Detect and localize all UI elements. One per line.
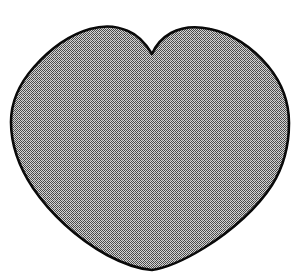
heart-figure (0, 0, 298, 273)
heart-pattern-page: HEART PATTERN (0, 0, 298, 273)
heart-shape-svg (0, 0, 298, 273)
